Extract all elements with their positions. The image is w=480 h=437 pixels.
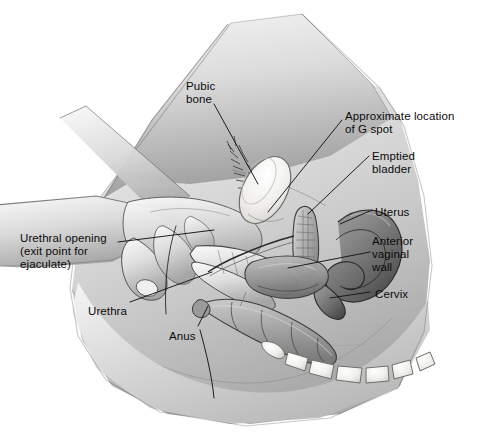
label-pubic-bone: Pubic bone	[186, 80, 215, 106]
label-cervix: Cervix	[375, 288, 408, 301]
label-uterus: Uterus	[375, 206, 409, 219]
illustration-canvas: Pubic bone Approximate location of G spo…	[0, 0, 480, 437]
vertebra-5	[366, 366, 389, 383]
label-urethral-opening: Urethral opening (exit point for ejacula…	[20, 232, 107, 272]
label-anterior-vaginal-wall: Anterior vaginal wall	[372, 235, 413, 275]
vertebra-4	[336, 366, 362, 383]
label-g-spot: Approximate location of G spot	[345, 110, 454, 136]
label-anus: Anus	[169, 330, 196, 343]
label-urethra: Urethra	[88, 305, 127, 318]
label-emptied-bladder: Emptied bladder	[372, 150, 415, 176]
